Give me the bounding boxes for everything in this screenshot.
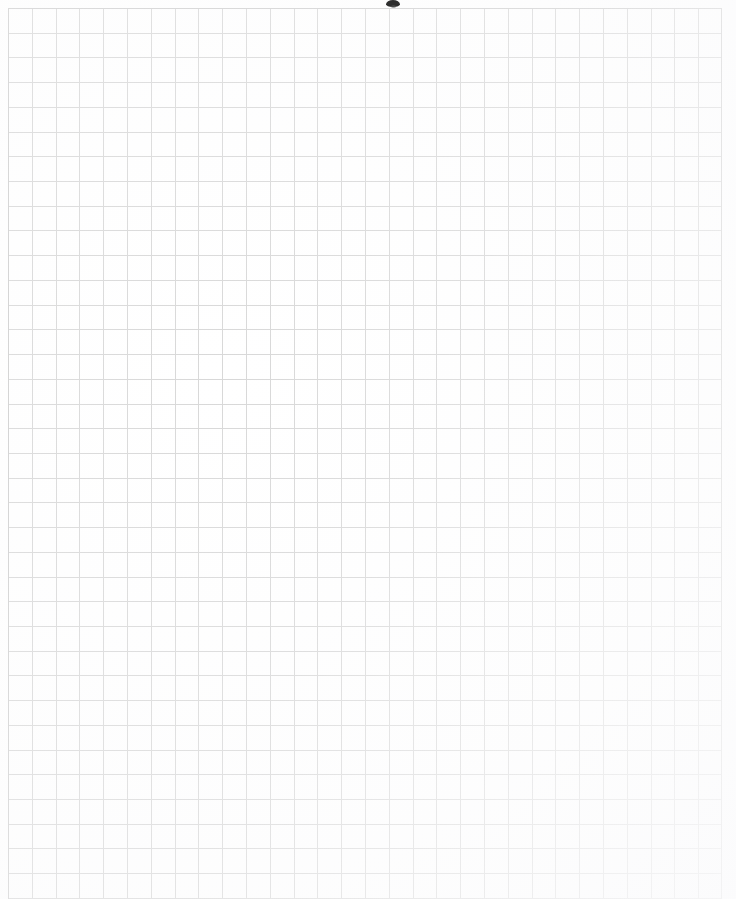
paper-margin-right [722,0,736,899]
scan-smudge-tail [391,5,396,8]
paper-sheet [0,0,736,899]
paper-margin-top [0,0,736,8]
paper-margin-left [0,0,8,899]
graph-paper-page: A scanned blank sheet of square-ruled gr… [0,0,736,899]
grid-top-border [8,8,722,9]
graph-grid [8,8,722,899]
grid-left-border [8,8,9,899]
